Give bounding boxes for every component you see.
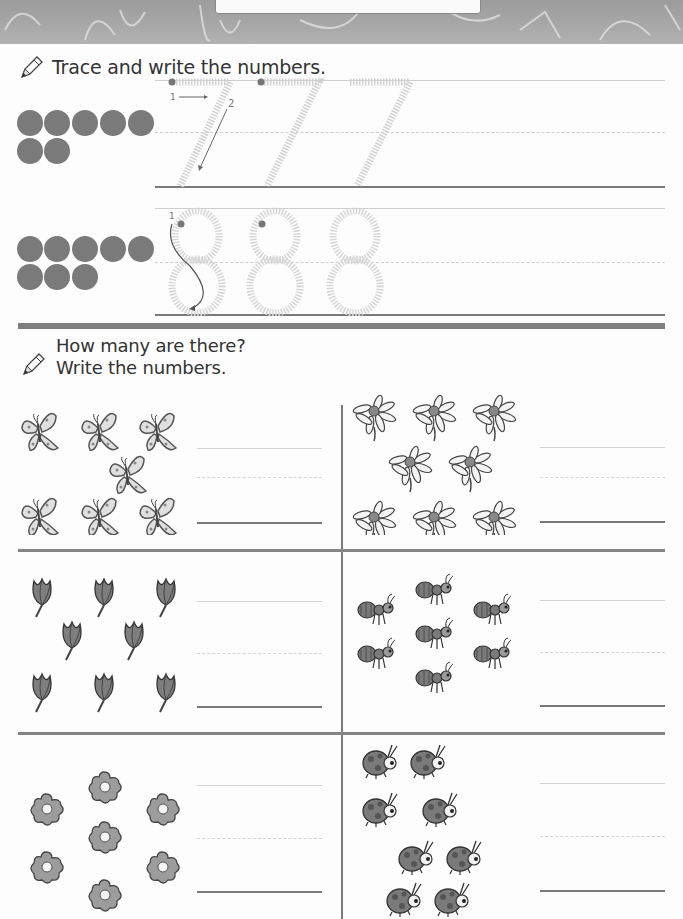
- trace-heading: Trace and write the numbers.: [52, 56, 326, 78]
- panel-divider-row2: [18, 732, 665, 735]
- pencil-icon: [18, 55, 44, 81]
- count-heading-line2: Write the numbers.: [56, 357, 226, 378]
- pencil-icon: [20, 352, 46, 378]
- panel-divider-row1: [18, 549, 665, 552]
- daisy-group: [350, 395, 530, 535]
- title-tab: [215, 0, 481, 14]
- svg-text:1: 1: [170, 92, 176, 102]
- count-heading-line1: How many are there?: [56, 335, 246, 356]
- chalkboard-banner: [0, 0, 683, 44]
- ant-group: [355, 570, 535, 710]
- trace-seven-guide[interactable]: 1 2: [155, 76, 455, 188]
- butterfly-group: [18, 405, 198, 535]
- trace-eight-guide[interactable]: 1: [155, 206, 455, 316]
- panel-divider-vertical: [341, 405, 343, 919]
- section-divider: [18, 323, 665, 329]
- svg-text:2: 2: [228, 98, 234, 109]
- svg-text:1: 1: [169, 211, 175, 221]
- flower-group: [28, 770, 198, 918]
- ladybug-group: [360, 742, 520, 919]
- tulip-group: [18, 570, 198, 720]
